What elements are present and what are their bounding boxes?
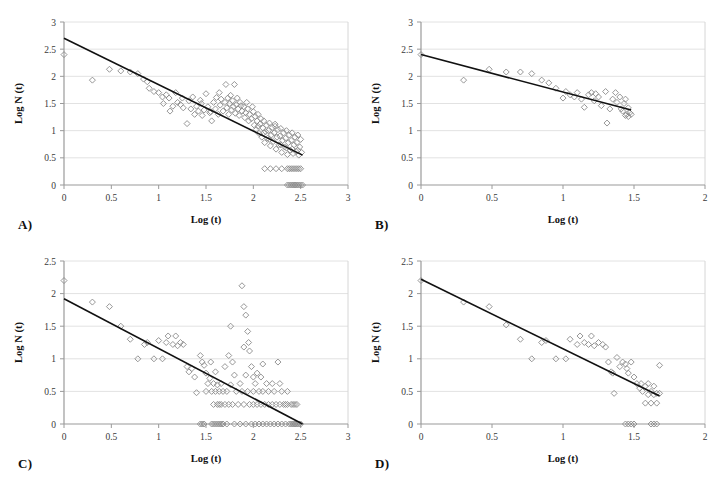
y-axis-title: Log N (t) <box>370 83 382 124</box>
x-tick-label: 1 <box>561 193 566 203</box>
x-axis-title: Log (t) <box>191 214 222 226</box>
x-tick-label: 0 <box>419 432 424 442</box>
y-tick-label: 3 <box>408 18 413 28</box>
y-tick-label: 0.5 <box>401 387 413 397</box>
panel-a: 00.511.522.5300.511.522.53Log (t)Log N (… <box>0 0 356 239</box>
y-tick-label: 1 <box>408 126 413 136</box>
x-tick-label: 0.5 <box>486 193 498 203</box>
panel-b-plot: 00.511.5200.511.522.53Log (t)Log N (t) <box>357 0 713 239</box>
x-tick-label: 0.5 <box>486 432 498 442</box>
y-tick-label: 3 <box>51 18 56 28</box>
y-tick-label: 2 <box>408 72 413 82</box>
panel-b: 00.511.5200.511.522.53Log (t)Log N (t) B… <box>357 0 713 239</box>
panel-a-plot: 00.511.522.5300.511.522.53Log (t)Log N (… <box>0 0 356 239</box>
panel-d-label: D) <box>375 456 389 472</box>
x-tick-label: 0 <box>62 432 67 442</box>
y-tick-label: 2 <box>51 72 56 82</box>
y-tick-label: 0.5 <box>44 387 56 397</box>
x-tick-label: 2 <box>251 193 256 203</box>
panel-c-label: C) <box>18 456 32 472</box>
x-axis-title: Log (t) <box>548 214 579 226</box>
y-tick-label: 1 <box>408 354 413 364</box>
x-tick-label: 0.5 <box>105 193 117 203</box>
y-tick-label: 2.5 <box>401 45 413 55</box>
x-tick-label: 1.5 <box>200 432 212 442</box>
y-tick-label: 0 <box>408 420 413 430</box>
y-tick-label: 0.5 <box>401 153 413 163</box>
x-tick-label: 1 <box>156 193 161 203</box>
y-tick-label: 1.5 <box>44 322 56 332</box>
x-tick-label: 2.5 <box>295 432 307 442</box>
x-tick-label: 0 <box>62 193 67 203</box>
x-tick-label: 2.5 <box>295 193 307 203</box>
x-tick-label: 2 <box>703 432 708 442</box>
y-tick-label: 0 <box>51 181 56 191</box>
x-tick-label: 3 <box>346 193 351 203</box>
y-tick-label: 2 <box>51 289 56 299</box>
panel-a-label: A) <box>18 217 32 233</box>
y-tick-label: 1 <box>51 126 56 136</box>
y-tick-label: 2.5 <box>44 45 56 55</box>
x-tick-label: 0.5 <box>105 432 117 442</box>
x-tick-label: 3 <box>346 432 351 442</box>
panel-b-label: B) <box>375 217 389 233</box>
y-tick-label: 1.5 <box>401 99 413 109</box>
figure-four-panel-scatter: 00.511.522.5300.511.522.53Log (t)Log N (… <box>0 0 713 478</box>
panel-c: 00.511.522.5300.511.522.5Log (t)Log N (t… <box>0 239 356 478</box>
y-tick-label: 2.5 <box>44 257 56 267</box>
x-tick-label: 2 <box>251 432 256 442</box>
y-axis-title: Log N (t) <box>370 322 382 363</box>
panel-d: 00.511.5200.511.522.5Log (t)Log N (t) D) <box>357 239 713 478</box>
x-tick-label: 1.5 <box>200 193 212 203</box>
x-axis-title: Log (t) <box>548 453 579 465</box>
y-tick-label: 2 <box>408 289 413 299</box>
x-tick-label: 2 <box>703 193 708 203</box>
x-tick-label: 1 <box>156 432 161 442</box>
y-tick-label: 0.5 <box>44 153 56 163</box>
y-tick-label: 0 <box>51 420 56 430</box>
y-tick-label: 1.5 <box>44 99 56 109</box>
panel-d-plot: 00.511.5200.511.522.5Log (t)Log N (t) <box>357 239 713 478</box>
y-tick-label: 1 <box>51 354 56 364</box>
y-tick-label: 0 <box>408 181 413 191</box>
x-tick-label: 1 <box>561 432 566 442</box>
y-axis-title: Log N (t) <box>13 322 25 363</box>
y-axis-title: Log N (t) <box>13 83 25 124</box>
x-tick-label: 1.5 <box>628 432 640 442</box>
x-axis-title: Log (t) <box>191 453 222 465</box>
x-tick-label: 1.5 <box>628 193 640 203</box>
panel-c-plot: 00.511.522.5300.511.522.5Log (t)Log N (t… <box>0 239 356 478</box>
x-tick-label: 0 <box>419 193 424 203</box>
y-tick-label: 2.5 <box>401 257 413 267</box>
y-tick-label: 1.5 <box>401 322 413 332</box>
